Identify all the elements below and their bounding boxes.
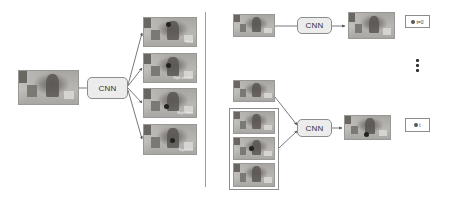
output-caption: Right wrist (179, 149, 193, 152)
right-bottom-cnn-box: CNN (297, 119, 332, 137)
previous-heatmap-2 (233, 137, 275, 160)
circle-icon (411, 20, 415, 24)
output-frame-2: Right shoulder (143, 53, 197, 83)
right-top-output-frame (348, 12, 395, 39)
output-caption: Right elbow (177, 112, 193, 115)
output-frame-3: Right elbow (143, 88, 197, 118)
previous-heatmap-3 (233, 163, 275, 187)
left-input-frame (18, 70, 79, 105)
right-bottom-output-frame (344, 115, 391, 140)
right-top-input-frame (233, 14, 275, 37)
time-label-t0: t=0 (405, 15, 430, 28)
right-bottom-current-frame (233, 80, 275, 102)
output-caption: Head (186, 41, 193, 44)
output-frame-1: Head (143, 17, 197, 47)
circle-icon (414, 123, 418, 127)
time-label-text: t (419, 122, 420, 128)
time-label-t: t (405, 118, 430, 132)
diagram-canvas: CNN Head Right shoulder Right elbow Righ… (0, 0, 451, 198)
previous-heatmap-1 (233, 111, 275, 134)
output-caption: Right shoulder (174, 77, 193, 80)
left-cnn-box: CNN (87, 77, 128, 99)
output-frame-4: Right wrist (143, 124, 197, 155)
time-label-text: t=0 (416, 19, 423, 25)
ellipsis-vertical-icon (416, 59, 419, 74)
right-top-cnn-box: CNN (297, 17, 332, 34)
panel-divider (205, 12, 206, 187)
